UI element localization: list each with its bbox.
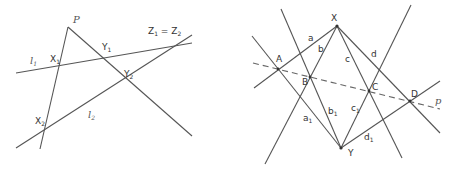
label-X: X [331,13,337,23]
label-l1: l1 [30,55,37,67]
label-l2: l2 [88,109,95,121]
line-b [265,26,337,164]
label-a: a [308,33,314,43]
label-Z1-eq-Z2: Z1 = Z2 [148,26,181,37]
label-c: c [345,54,350,64]
label-Y1: Y1 [101,42,112,53]
label-Y2: Y2 [123,69,134,80]
line-c1 [341,5,411,148]
point-C [368,90,371,93]
point-B [309,76,312,79]
label-C: C [372,82,378,92]
point-A [277,68,280,71]
label-D: D [411,89,418,99]
label-X2: X2 [35,116,45,127]
label-b1: b1 [328,106,338,117]
label-Y: Y [347,148,354,158]
point-D [409,100,412,103]
line-d1 [341,81,440,148]
line-d [337,26,440,133]
left-figure: P l1 l2 X1 X2 Y1 Y2 Z1 = Z2 [16,14,192,149]
dashed-line-p [253,63,440,109]
label-X1: X1 [50,54,60,65]
line-p-x [40,27,68,149]
label-P: P [72,14,80,25]
label-d1: d1 [364,132,374,143]
line-p-y [68,27,192,136]
label-a1: a1 [303,113,313,124]
label-d: d [371,49,377,59]
label-B: B [302,77,308,87]
label-A: A [276,54,283,64]
point-X [335,24,338,27]
label-c1: c1 [351,103,360,114]
label-p: p [435,95,442,106]
right-figure: X Y A B C D p a b c d a1 b1 c1 d1 [252,5,442,164]
diagram-canvas: P l1 l2 X1 X2 Y1 Y2 Z1 = Z2 X Y A B C D … [0,0,459,173]
point-Y [339,146,342,149]
line-a1 [252,36,341,148]
line-a [254,26,337,88]
label-b: b [318,44,324,54]
